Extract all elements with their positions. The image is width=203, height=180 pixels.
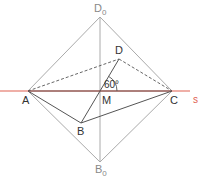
label-angle: 60°	[104, 79, 119, 90]
label-c: C	[170, 94, 178, 106]
label-d: D	[115, 44, 123, 56]
label-s: s	[193, 94, 198, 105]
label-b: B	[77, 125, 84, 137]
label-b0: B0	[95, 163, 107, 178]
geometry-diagram	[0, 0, 203, 180]
label-m: M	[102, 94, 111, 106]
label-a: A	[22, 94, 29, 106]
label-d0: D0	[94, 2, 106, 17]
construction-rhombus	[28, 17, 172, 162]
